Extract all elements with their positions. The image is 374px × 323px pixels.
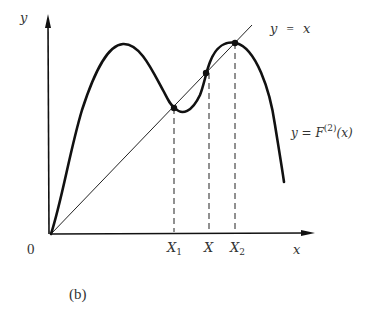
fixed-point-x1-marker <box>171 105 177 111</box>
second-iterate-label: y = F(2)(x) <box>291 123 353 140</box>
tick-x1-sub: 1 <box>176 247 182 257</box>
figure-caption: (b) <box>69 286 87 303</box>
tick-x1-base: X <box>167 240 176 255</box>
identity-line-label: y = x <box>270 21 310 37</box>
cobweb-diagram-figure: y x 0 y = x y = F(2)(x) X1 X X2 (b) <box>0 0 374 323</box>
y-axis-label: y <box>20 10 27 25</box>
x-axis-arrow-icon <box>301 230 315 236</box>
identity-line <box>51 25 252 234</box>
identity-label-equals: = <box>287 21 294 36</box>
identity-label-y: y <box>270 21 277 36</box>
tick-label-x2: X2 <box>230 240 245 257</box>
identity-label-x: x <box>303 21 310 36</box>
second-iterate-curve <box>51 43 284 234</box>
origin-label: 0 <box>27 241 35 258</box>
second-iterate-label-prefix: y = F <box>291 126 324 140</box>
y-axis-arrow-icon <box>45 14 51 28</box>
y-axis <box>48 22 49 234</box>
x-axis <box>50 233 306 234</box>
second-iterate-label-suffix: (x) <box>337 126 353 140</box>
fixed-point-x2-marker <box>232 40 238 46</box>
x-axis-label: x <box>293 242 300 257</box>
tick-x-base: X <box>204 240 213 255</box>
second-iterate-label-superscript: (2) <box>324 123 337 133</box>
diagram-canvas <box>0 0 374 323</box>
tick-label-x: X <box>204 240 213 255</box>
tick-x2-base: X <box>230 240 239 255</box>
fixed-point-x-marker <box>203 70 209 76</box>
tick-x2-sub: 2 <box>239 247 245 257</box>
tick-label-x1: X1 <box>167 240 182 257</box>
